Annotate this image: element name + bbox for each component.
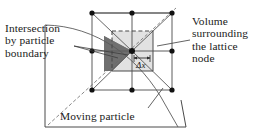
label-lattice-spacing-text: Δx: [136, 60, 145, 70]
label-moving-particle: Moving particle: [60, 110, 135, 122]
label-volume-line3: the lattice: [192, 40, 248, 52]
lattice-node: [89, 87, 94, 92]
leader-volume: [157, 40, 190, 46]
lattice-node: [169, 48, 174, 53]
label-intersection-line2: by particle: [5, 34, 60, 46]
lattice-node: [129, 87, 134, 92]
lattice-node: [129, 10, 134, 15]
label-volume-line4: node: [192, 52, 248, 64]
leader-moving: [148, 88, 163, 108]
label-intersection-by-particle-boundary: Intersection by particle boundary: [5, 22, 60, 59]
lattice-node-center: [129, 48, 135, 54]
lattice-node: [169, 87, 174, 92]
lattice-particle-diagram: Intersection by particle boundary Volume…: [0, 0, 267, 135]
label-volume-line1: Volume: [192, 15, 248, 27]
label-volume-surrounding-the-lattice-node: Volume surrounding the lattice node: [192, 15, 248, 65]
lattice-node: [89, 10, 94, 15]
label-lattice-spacing: Δx: [136, 60, 145, 70]
label-intersection-line3: boundary: [5, 47, 60, 59]
label-intersection-line1: Intersection: [5, 22, 60, 34]
label-moving-particle-text: Moving particle: [60, 110, 135, 122]
label-volume-line2: surrounding: [192, 27, 248, 39]
lattice-node: [169, 10, 174, 15]
